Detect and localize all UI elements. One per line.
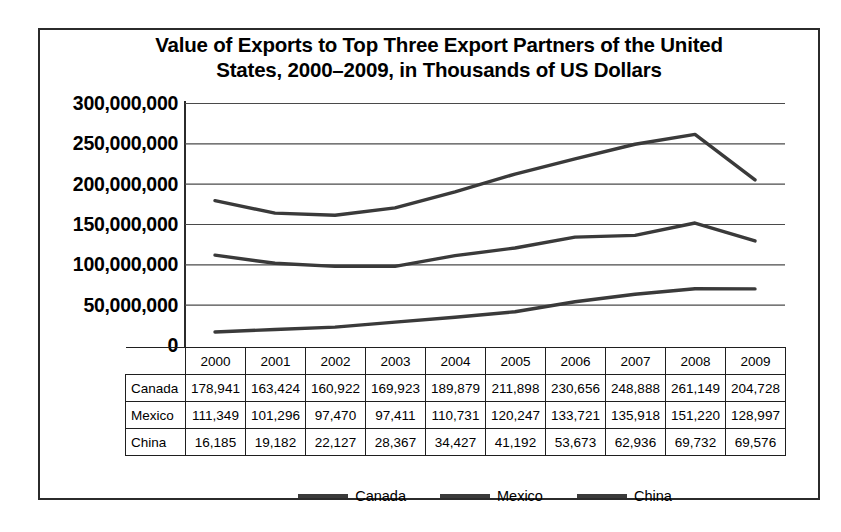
table-cell: 248,888	[606, 375, 666, 402]
legend-label: China	[634, 489, 672, 504]
table-cell: 19,182	[246, 429, 306, 456]
table-column-header: 2008	[666, 348, 726, 375]
plot-area	[185, 103, 785, 345]
table-cell: 110,731	[426, 402, 486, 429]
y-axis-tick-label: 200,000,000	[6, 172, 178, 195]
table-column-header: 2006	[546, 348, 606, 375]
table-cell: 120,247	[486, 402, 546, 429]
legend-item-mexico[interactable]: Mexico	[440, 489, 543, 504]
table-corner-cell	[126, 348, 186, 375]
table-row: China16,18519,18222,12728,36734,42741,19…	[126, 429, 786, 456]
table-cell: 133,721	[546, 402, 606, 429]
table-cell: 230,656	[546, 375, 606, 402]
table-cell: 101,296	[246, 402, 306, 429]
table-column-header: 2005	[486, 348, 546, 375]
table-row: Canada178,941163,424160,922169,923189,87…	[126, 375, 786, 402]
table-row-label: Mexico	[126, 402, 186, 429]
table-cell: 69,732	[666, 429, 726, 456]
legend-swatch-icon	[440, 494, 490, 498]
legend-label: Canada	[355, 489, 406, 504]
series-line-china	[215, 289, 755, 332]
series-line-mexico	[215, 223, 755, 266]
table-cell: 16,185	[186, 429, 246, 456]
table-cell: 22,127	[306, 429, 366, 456]
table-cell: 69,576	[726, 429, 786, 456]
chart-legend: CanadaMexicoChina	[185, 489, 785, 504]
table-row: Mexico111,349101,29697,47097,411110,7311…	[126, 402, 786, 429]
table-cell: 151,220	[666, 402, 726, 429]
table-cell: 97,470	[306, 402, 366, 429]
y-axis-tick-label: 50,000,000	[6, 293, 178, 316]
table-column-header: 2009	[726, 348, 786, 375]
table-column-header: 2000	[186, 348, 246, 375]
y-axis-tick-label: 250,000,000	[6, 132, 178, 155]
table-column-header: 2007	[606, 348, 666, 375]
series-line-canada	[215, 134, 755, 215]
line-chart-svg	[185, 103, 785, 345]
table-cell: 111,349	[186, 402, 246, 429]
table-cell: 261,149	[666, 375, 726, 402]
table-cell: 135,918	[606, 402, 666, 429]
table-cell: 97,411	[366, 402, 426, 429]
table-column-header: 2004	[426, 348, 486, 375]
table-column-header: 2002	[306, 348, 366, 375]
table-cell: 178,941	[186, 375, 246, 402]
table-column-header: 2003	[366, 348, 426, 375]
table-cell: 204,728	[726, 375, 786, 402]
table-row-label: Canada	[126, 375, 186, 402]
table-cell: 128,997	[726, 402, 786, 429]
table-cell: 34,427	[426, 429, 486, 456]
table-cell: 189,879	[426, 375, 486, 402]
data-table: 2000200120022003200420052006200720082009…	[125, 347, 786, 456]
y-axis-tick-label: 150,000,000	[6, 213, 178, 236]
legend-item-china[interactable]: China	[577, 489, 672, 504]
legend-swatch-icon	[298, 494, 348, 498]
y-axis-tick-label: 300,000,000	[6, 92, 178, 115]
table-column-header: 2001	[246, 348, 306, 375]
data-table-body: 2000200120022003200420052006200720082009…	[126, 348, 786, 456]
legend-label: Mexico	[497, 489, 543, 504]
table-header-row: 2000200120022003200420052006200720082009	[126, 348, 786, 375]
table-cell: 163,424	[246, 375, 306, 402]
table-cell: 211,898	[486, 375, 546, 402]
table-cell: 169,923	[366, 375, 426, 402]
legend-swatch-icon	[577, 494, 627, 498]
table-cell: 28,367	[366, 429, 426, 456]
table-cell: 160,922	[306, 375, 366, 402]
legend-item-canada[interactable]: Canada	[298, 489, 406, 504]
table-cell: 62,936	[606, 429, 666, 456]
table-cell: 41,192	[486, 429, 546, 456]
table-row-label: China	[126, 429, 186, 456]
y-axis-tick-label: 100,000,000	[6, 253, 178, 276]
table-cell: 53,673	[546, 429, 606, 456]
